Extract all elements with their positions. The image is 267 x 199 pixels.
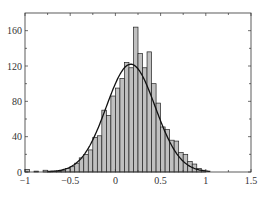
histogram-bar (174, 141, 179, 172)
histogram-bar (115, 88, 120, 172)
x-tick-label: 0 (113, 175, 118, 186)
histogram-bars (25, 27, 206, 172)
histogram-bar (124, 62, 129, 172)
y-tick-label: 160 (7, 25, 22, 36)
histogram-bar (84, 154, 89, 172)
histogram-bar (179, 153, 184, 172)
histogram-bar (152, 84, 157, 172)
x-tick-label: 1 (203, 175, 208, 186)
histogram-bar (93, 138, 98, 172)
histogram-bar (97, 136, 102, 172)
histogram-bar (70, 167, 75, 172)
y-tick-labels: 04080120160 (7, 25, 22, 177)
histogram-bar (111, 96, 116, 172)
histogram-bar (161, 127, 166, 172)
histogram-chart: −1−0.500.511.5 04080120160 (0, 0, 267, 199)
x-tick-label: 0.5 (154, 175, 167, 186)
histogram-bar (106, 115, 111, 172)
histogram-bar (88, 150, 93, 172)
x-tick-labels: −1−0.500.511.5 (20, 175, 258, 186)
x-tick-label: −0.5 (61, 175, 79, 186)
y-tick-label: 80 (12, 96, 22, 107)
histogram-bar (129, 68, 134, 172)
y-tick-label: 40 (12, 131, 22, 142)
y-tick-label: 120 (7, 61, 22, 72)
x-tick-label: 1.5 (245, 175, 258, 186)
histogram-bar (120, 78, 125, 172)
histogram-bar (133, 27, 138, 172)
histogram-bar (102, 110, 107, 172)
histogram-bar (147, 52, 152, 172)
y-tick-label: 0 (17, 167, 22, 178)
